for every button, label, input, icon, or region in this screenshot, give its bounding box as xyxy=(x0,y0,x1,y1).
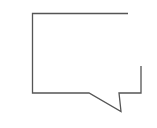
speech-bubble-outline xyxy=(33,14,142,112)
speech-bubble-icon xyxy=(0,0,157,128)
